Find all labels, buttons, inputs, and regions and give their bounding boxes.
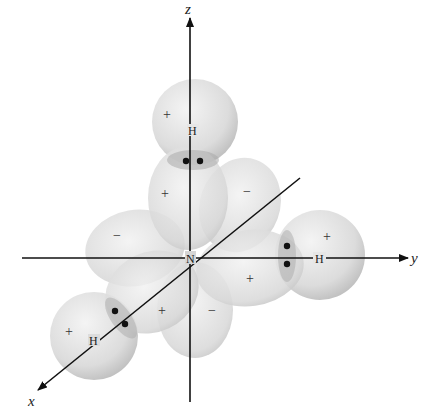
electron-dot [122, 321, 128, 327]
sign-lobe-left: − [113, 228, 121, 243]
electron-dot [183, 158, 189, 164]
hydrogen-label-right: H [315, 252, 324, 266]
sign-lobe-bottom: − [208, 303, 216, 318]
overlap-top [167, 150, 219, 170]
sign-hydrogen-right: + [323, 229, 331, 244]
sign-lobe-right: + [246, 271, 254, 286]
sign-lobe-upper-back: − [243, 184, 251, 199]
hydrogen-label-top: H [188, 124, 197, 138]
electron-dot [284, 243, 290, 249]
x-axis-label: x [27, 393, 35, 409]
sign-hydrogen-top: + [163, 107, 171, 122]
sign-hydrogen-front: + [65, 324, 73, 339]
electron-dot [197, 158, 203, 164]
z-axis-label: z [184, 1, 191, 17]
hydrogen-label-front: H [89, 334, 98, 348]
electron-dot [112, 308, 118, 314]
diagram-canvas: z y x N H H H + + + + − − + + − [0, 0, 431, 418]
sign-lobe-upper: + [161, 186, 169, 201]
sign-lobe-lower-front: + [158, 303, 166, 318]
overlap-right [278, 230, 296, 282]
nitrogen-label: N [186, 252, 195, 266]
electron-dot [284, 261, 290, 267]
y-axis-label: y [409, 250, 418, 266]
orbital-diagram: z y x N H H H + + + + − − + + − [0, 0, 431, 418]
